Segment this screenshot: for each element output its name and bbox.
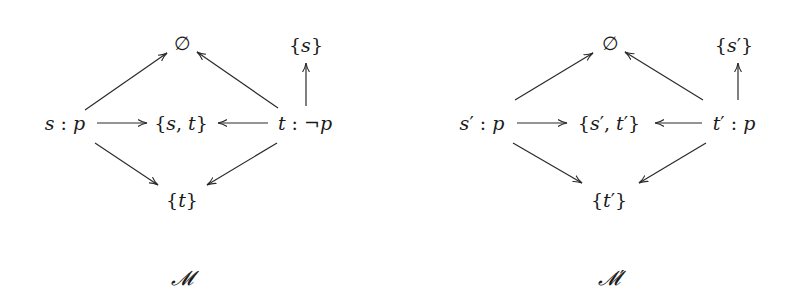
node-s-singleton: {s′} xyxy=(715,36,753,55)
caption-model-m-prime: 𝓜′ xyxy=(598,266,625,290)
arrow-s-world-to-empty xyxy=(515,53,593,100)
edges-layer xyxy=(0,0,801,305)
node-empty-set: ∅ xyxy=(174,34,191,53)
node-st-set: {s′, t′} xyxy=(578,114,640,133)
node-world-t: t : ¬p xyxy=(278,114,332,133)
arrow-s-world-to-empty xyxy=(85,53,167,110)
arrow-t-world-to-empty xyxy=(197,52,278,108)
node-empty-set: ∅ xyxy=(602,34,619,53)
node-s-singleton: {s} xyxy=(289,36,323,55)
arrow-t-world-to-empty xyxy=(625,52,703,100)
node-t-singleton: {t} xyxy=(166,191,198,210)
arrow-t-world-to-t-singleton xyxy=(639,143,706,183)
node-world-t: t′ : p xyxy=(713,114,756,133)
arrow-t-world-to-t-singleton xyxy=(207,143,277,185)
node-world-s: s′ : p xyxy=(460,114,505,133)
model-diagrams: ∅ {s} s : p {s, t} t : ¬p {t} 𝓜 ∅ {s′} s… xyxy=(0,0,801,305)
arrow-s-world-to-t-singleton xyxy=(513,143,582,183)
node-world-s: s : p xyxy=(45,114,85,133)
caption-model-m: 𝓜 xyxy=(171,266,193,290)
node-t-singleton: {t′} xyxy=(591,191,627,210)
node-st-set: {s, t} xyxy=(154,114,208,133)
arrow-s-world-to-t-singleton xyxy=(95,143,158,185)
